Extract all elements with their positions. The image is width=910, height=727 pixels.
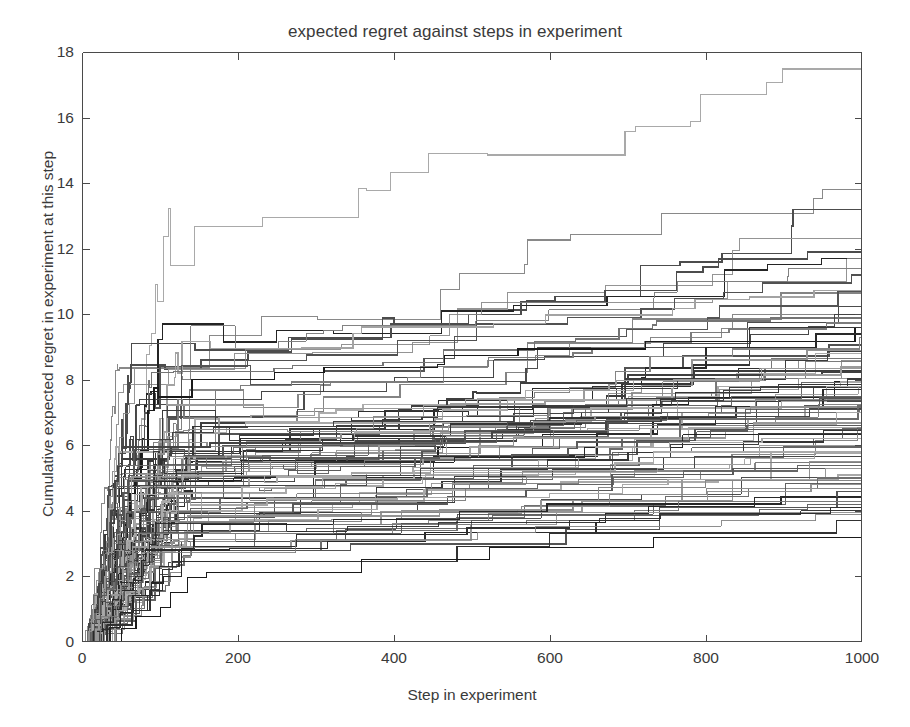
regret-curve (82, 245, 862, 642)
regret-curve (82, 508, 862, 642)
y-tick-label: 2 (40, 568, 74, 584)
series-group (82, 59, 862, 642)
plot-svg (82, 52, 862, 642)
x-tick-label: 400 (381, 650, 407, 666)
regret-curve (82, 416, 862, 642)
y-tick-label: 16 (40, 110, 74, 126)
y-tick-label: 8 (40, 372, 74, 388)
y-axis-tick-labels: 024681012141618 (38, 52, 74, 642)
figure-canvas: expected regret against steps in experim… (0, 0, 910, 727)
x-tick-label: 600 (537, 650, 563, 666)
x-tick-label: 200 (225, 650, 251, 666)
regret-curve (82, 475, 862, 642)
regret-curve (82, 468, 862, 642)
x-tick-label: 1000 (845, 650, 879, 666)
y-tick-label: 0 (40, 634, 74, 650)
y-tick-label: 14 (40, 175, 74, 191)
y-tick-label: 6 (40, 437, 74, 453)
x-axis-label: Step in experiment (82, 686, 862, 704)
x-axis-tick-labels: 02004006008001000 (82, 650, 872, 672)
plot-area (82, 52, 862, 642)
regret-curve (82, 439, 862, 642)
y-tick-label: 18 (40, 44, 74, 60)
y-tick-label: 4 (40, 503, 74, 519)
regret-curve (82, 347, 862, 642)
chart-title: expected regret against steps in experim… (0, 22, 910, 42)
x-tick-label: 0 (78, 650, 87, 666)
y-tick-label: 10 (40, 306, 74, 322)
y-tick-label: 12 (40, 241, 74, 257)
regret-curve (82, 504, 862, 642)
x-tick-label: 800 (693, 650, 719, 666)
regret-curve (82, 498, 862, 642)
